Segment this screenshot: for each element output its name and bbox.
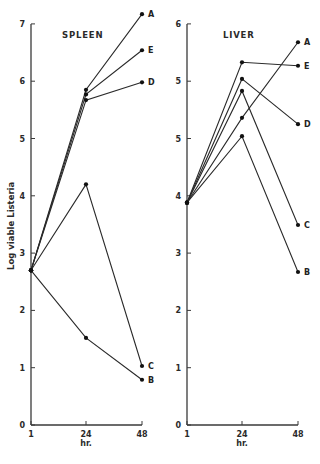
data-point: [84, 92, 88, 96]
y-axis-label: Log viable Listeria: [6, 181, 16, 270]
y-tick-label: 0: [19, 421, 25, 430]
data-point: [140, 48, 144, 52]
x-axis-label: hr.: [236, 439, 248, 448]
data-point: [84, 88, 88, 92]
x-tick-label: 1: [28, 430, 34, 439]
series-label-A: A: [304, 38, 311, 47]
x-tick-label: 24: [80, 430, 92, 439]
y-tick-label: 5: [175, 135, 181, 144]
data-point: [240, 134, 244, 138]
y-tick-label: 7: [19, 20, 25, 29]
data-point: [240, 116, 244, 120]
series-line-B: [187, 136, 298, 272]
data-point: [140, 12, 144, 16]
data-point: [84, 98, 88, 102]
y-tick-label: 5: [19, 135, 25, 144]
y-tick-label: 0: [175, 421, 181, 430]
series-line-E: [31, 50, 142, 270]
series-label-E: E: [304, 62, 309, 71]
y-tick-label: 3: [19, 249, 25, 258]
data-point: [296, 40, 300, 44]
series-label-D: D: [304, 120, 311, 129]
x-axis-label: hr.: [80, 439, 92, 448]
data-point: [140, 80, 144, 84]
series-label-A: A: [148, 10, 155, 19]
series-line-D: [31, 82, 142, 270]
x-tick-label: 48: [292, 430, 304, 439]
series-line-A: [187, 42, 298, 202]
data-point: [29, 268, 33, 272]
y-tick-label: 3: [175, 249, 181, 258]
y-tick-label: 6: [175, 20, 181, 29]
spleen-title: SPLEEN: [62, 30, 103, 40]
y-tick-label: 4: [175, 192, 181, 201]
y-tick-label: 2: [175, 306, 181, 315]
data-point: [185, 201, 189, 205]
data-point: [140, 364, 144, 368]
series-line-E: [187, 62, 298, 202]
series-label-B: B: [148, 376, 154, 385]
y-tick-label: 4: [19, 192, 25, 201]
data-point: [296, 122, 300, 126]
y-tick-label: 1: [19, 364, 25, 373]
data-point: [240, 89, 244, 93]
listeria-figure: Log viable Listeria 0123456712448hr.SPLE…: [0, 0, 320, 464]
series-label-E: E: [148, 46, 153, 55]
y-tick-label: 1: [175, 364, 181, 373]
data-point: [84, 182, 88, 186]
series-label-B: B: [304, 268, 310, 277]
data-point: [84, 336, 88, 340]
series-line-B: [31, 270, 142, 379]
x-tick-label: 48: [136, 430, 148, 439]
series-line-A: [31, 14, 142, 270]
data-point: [240, 60, 244, 64]
liver-panel: 0123455612448hr.LIVERAEDCB: [175, 20, 311, 448]
data-point: [140, 378, 144, 382]
x-tick-label: 1: [184, 430, 190, 439]
y-tick-label: 5: [175, 77, 181, 86]
x-tick-label: 24: [236, 430, 248, 439]
series-label-D: D: [148, 78, 155, 87]
data-point: [240, 77, 244, 81]
data-point: [296, 64, 300, 68]
series-label-C: C: [148, 362, 154, 371]
data-point: [296, 223, 300, 227]
y-tick-label: 2: [19, 306, 25, 315]
y-tick-label: 6: [19, 77, 25, 86]
liver-title: LIVER: [223, 30, 255, 40]
spleen-panel: 0123456712448hr.SPLEENAEDCB: [19, 10, 155, 448]
series-label-C: C: [304, 221, 310, 230]
data-point: [296, 270, 300, 274]
